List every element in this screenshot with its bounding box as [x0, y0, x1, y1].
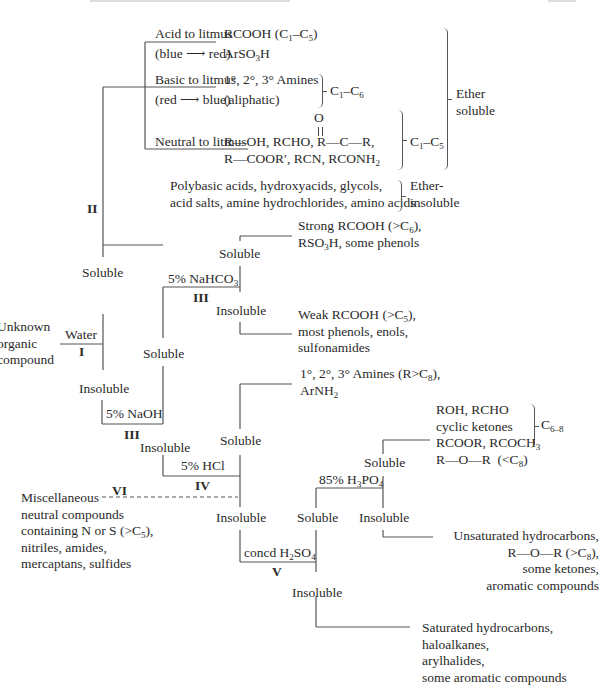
- phosphoric-soluble-label: Soluble: [364, 455, 405, 472]
- naoh-soluble-label: Soluble: [143, 346, 184, 363]
- acid-compounds: RCOOH (C1–C5) ArSO3H RCOOH (C₁–C₅): [224, 26, 317, 62]
- phosphoric-insoluble-compounds: Unsaturated hydrocarbons, R—O—R (>C8), s…: [454, 528, 599, 594]
- basic-compound-1: 1°, 2°, 3° Amines: [224, 72, 319, 89]
- ether-insoluble-label: Ether- insoluble: [410, 178, 460, 211]
- start-line-1: Unknown: [0, 319, 54, 336]
- ether-soluble-brace: [443, 28, 448, 170]
- misc-neutral-compounds: Miscellaneous neutral compounds containi…: [21, 490, 153, 573]
- ether-insoluble-compounds: Polybasic acids, hydroxyacids, glycols, …: [170, 178, 416, 211]
- test-i-numeral: I: [79, 344, 84, 361]
- misc-line-1: Miscellaneous: [21, 490, 153, 507]
- start-line-2: organic: [0, 336, 54, 353]
- test-iii-bicarb-reagent: 5% NaHCO3: [168, 271, 238, 288]
- sulf-insol-line-4: some aromatic compounds: [422, 670, 567, 687]
- phosphoric-reagent: 85% H3PO4: [319, 472, 383, 489]
- test-iii-naoh-reagent: 5% NaOH: [106, 406, 163, 423]
- acid-compound-2: ArSO3H: [224, 46, 317, 63]
- neutral-compound-1: R—OH, RCHO, R—C—R,: [224, 134, 380, 151]
- start-node-unknown-compound: Unknown organic compound: [0, 319, 54, 369]
- phos-sol-line-4: R—O—R (<C8): [436, 452, 540, 469]
- acid-condition-line-1: Acid to litmus: [155, 26, 232, 43]
- hcl-soluble-label: Soluble: [220, 433, 261, 450]
- ether-soluble-line-1: Ether: [456, 86, 495, 103]
- ether-insoluble-label-1: Ether-: [410, 178, 460, 195]
- neutral-compounds: R—OH, RCHO, R—C—R, R—COOR′, RCN, RCONH2: [224, 134, 380, 167]
- sulf-insol-line-1: Saturated hydrocarbons,: [422, 620, 567, 637]
- test-iii-naoh-numeral: III: [124, 427, 140, 444]
- test-iv-reagent: 5% HCl: [181, 458, 225, 475]
- phosphoric-range-brace: [530, 404, 535, 448]
- basic-compound-2: (aliphatic): [224, 92, 319, 109]
- sulf-insol-line-3: arylhalides,: [422, 653, 567, 670]
- neutral-range-brace: [398, 110, 403, 170]
- ether-insoluble-label-2: insoluble: [410, 195, 460, 212]
- phos-sol-line-3: RCOOR, RCOCH3: [436, 435, 540, 452]
- test-iii-bicarb-numeral: III: [193, 290, 209, 307]
- bicarb-insoluble-line-3: sulfonamides: [298, 340, 416, 357]
- basic-compounds: 1°, 2°, 3° Amines (aliphatic): [224, 72, 319, 108]
- ether-insoluble-line-1: Polybasic acids, hydroxyacids, glycols,: [170, 178, 416, 195]
- neutral-range: C1–C5: [410, 134, 444, 151]
- bicarb-soluble-label: Soluble: [219, 246, 260, 263]
- phos-sol-line-2: cyclic ketones: [436, 419, 540, 436]
- test-iv-numeral: IV: [195, 478, 210, 495]
- misc-line-4: nitriles, amides,: [21, 540, 153, 557]
- misc-line-2: neutral compounds: [21, 507, 153, 524]
- misc-line-3: containing N or S (>C5),: [21, 523, 153, 540]
- hcl-soluble-line-2: ArNH2: [300, 383, 440, 400]
- sulfuric-soluble-label: Soluble: [297, 510, 338, 527]
- test-ii-numeral: II: [87, 201, 98, 218]
- basic-range-brace: [318, 74, 323, 108]
- phosphoric-range: C6–8: [541, 417, 564, 434]
- ether-insoluble-line-2: acid salts, amine hydrochlorides, amino …: [170, 195, 416, 212]
- start-line-3: compound: [0, 352, 54, 369]
- ether-soluble-line-2: soluble: [456, 103, 495, 120]
- phosphoric-soluble-compounds: ROH, RCHO cyclic ketones RCOOR, RCOCH3 R…: [436, 402, 540, 468]
- bicarb-insoluble-line-2: most phenols, enols,: [298, 324, 416, 341]
- bicarb-insoluble-line-1: Weak RCOOH (>C5),: [298, 307, 416, 324]
- ether-insoluble-brace: [397, 180, 402, 212]
- phosphoric-insoluble-label: Insoluble: [359, 510, 409, 527]
- bicarb-insoluble-label: Insoluble: [216, 303, 266, 320]
- phos-sol-line-1: ROH, RCHO: [436, 402, 540, 419]
- bicarb-soluble-compounds: Strong RCOOH (>C6), RSO3H, some phenols: [298, 218, 422, 251]
- hcl-soluble-line-1: 1°, 2°, 3° Amines (R>C8),: [300, 366, 440, 383]
- acid-litmus-condition: Acid to litmus (blue ⟶ red): [155, 26, 232, 62]
- test-v-numeral: V: [272, 564, 282, 581]
- acid-condition-line-2: (blue ⟶ red): [155, 46, 232, 63]
- sulfuric-insoluble-compounds: Saturated hydrocarbons, haloalkanes, ary…: [422, 620, 567, 686]
- phos-insol-line-4: aromatic compounds: [454, 578, 599, 595]
- test-i-reagent: Water: [65, 327, 97, 344]
- ether-soluble-label: Ether soluble: [456, 86, 495, 119]
- water-soluble-label: Soluble: [82, 265, 123, 282]
- water-insoluble-label: Insoluble: [79, 381, 129, 398]
- test-v-reagent: concd H2SO4: [244, 545, 316, 562]
- bicarb-insoluble-compounds: Weak RCOOH (>C5), most phenols, enols, s…: [298, 307, 416, 357]
- basic-range: C1–C6: [330, 83, 364, 100]
- sulfuric-insoluble-label: Insoluble: [292, 585, 342, 602]
- hcl-amines: 1°, 2°, 3° Amines (R>C8), ArNH2: [300, 366, 440, 399]
- phos-insol-line-1: Unsaturated hydrocarbons,: [454, 528, 599, 545]
- hcl-insoluble-label: Insoluble: [216, 510, 266, 527]
- naoh-insoluble-label: Insoluble: [140, 440, 190, 457]
- neutral-compound-2: R—COOR′, RCN, RCONH2: [224, 151, 380, 168]
- phos-insol-line-2: R—O—R (>C8),: [454, 545, 599, 562]
- misc-line-5: mercaptans, sulfides: [21, 556, 153, 573]
- carbonyl-oxygen: O: [314, 110, 324, 127]
- bicarb-soluble-line-1: Strong RCOOH (>C6),: [298, 218, 422, 235]
- phos-insol-line-3: some ketones,: [454, 561, 599, 578]
- sulf-insol-line-2: haloalkanes,: [422, 637, 567, 654]
- acid-compound-1: RCOOH (C1–C5): [224, 26, 317, 43]
- bicarb-soluble-line-2: RSO3H, some phenols: [298, 235, 422, 252]
